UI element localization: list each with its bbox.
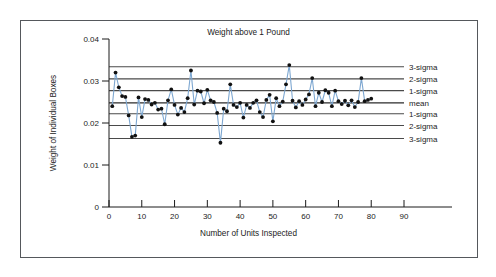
data-point-marker	[196, 89, 200, 93]
data-point-marker	[241, 116, 245, 120]
data-point-marker	[143, 97, 147, 101]
data-point-marker	[284, 82, 288, 86]
data-point-marker	[127, 114, 131, 118]
data-point-marker	[310, 76, 314, 80]
data-point-marker	[274, 96, 278, 100]
data-point-marker	[317, 91, 321, 95]
control-limit-label-lower-4: 1-sigma	[409, 110, 438, 119]
data-point-marker	[189, 69, 193, 73]
x-axis-title: Number of Units Inspected	[200, 229, 297, 238]
figure-frame: 3-sigma2-sigma1-sigmamean1-sigma2-sigma3…	[20, 20, 478, 258]
data-point-marker	[137, 95, 141, 99]
x-tick-label-9: 90	[400, 212, 409, 221]
data-point-marker	[114, 71, 118, 75]
data-point-marker	[235, 105, 239, 109]
data-point-marker	[359, 76, 363, 80]
data-point-marker	[202, 101, 206, 105]
data-point-marker	[222, 107, 226, 111]
data-point-marker	[346, 103, 350, 107]
data-point-marker	[320, 100, 324, 104]
data-point-marker	[228, 82, 232, 86]
data-point-marker	[350, 98, 354, 102]
x-tick-label-6: 60	[301, 212, 310, 221]
data-point-marker	[291, 99, 295, 103]
data-point-marker	[225, 109, 229, 113]
data-point-marker	[219, 141, 223, 145]
x-tick-label-4: 40	[236, 212, 245, 221]
data-point-marker	[169, 88, 173, 92]
data-point-marker	[264, 98, 268, 102]
data-point-marker	[245, 103, 249, 107]
data-point-marker	[327, 91, 331, 95]
data-point-marker	[333, 89, 337, 93]
data-point-marker	[153, 101, 157, 105]
control-limit-label-upper-2: 1-sigma	[409, 87, 438, 96]
x-tick-label-8: 80	[367, 212, 376, 221]
y-tick-label-0: 0	[95, 203, 100, 212]
data-point-marker	[340, 102, 344, 106]
data-point-marker	[297, 99, 301, 103]
y-tick-label-3: 0.03	[83, 77, 99, 86]
x-tick-label-5: 50	[268, 212, 277, 221]
data-point-marker	[248, 106, 252, 110]
data-point-marker	[271, 119, 275, 123]
data-point-marker	[166, 98, 170, 102]
chart-title: Weight above 1 Pound	[207, 28, 290, 37]
data-point-marker	[323, 88, 327, 92]
control-limit-label-lower-6: 3-sigma	[409, 135, 438, 144]
data-point-marker	[287, 63, 291, 67]
data-point-marker	[307, 93, 311, 97]
y-tick-label-1: 0.01	[83, 161, 99, 170]
x-tick-label-2: 20	[170, 212, 179, 221]
data-point-marker	[120, 94, 124, 98]
y-tick-label-4: 0.04	[83, 35, 99, 44]
data-point-marker	[199, 90, 203, 94]
data-point-marker	[209, 98, 213, 102]
data-point-marker	[179, 106, 183, 110]
data-point-marker	[160, 107, 164, 111]
data-point-marker	[304, 98, 308, 102]
data-point-marker	[163, 122, 167, 126]
x-tick-label-0: 0	[107, 212, 112, 221]
data-point-marker	[300, 103, 304, 107]
data-point-marker	[278, 104, 282, 108]
data-point-marker	[268, 93, 272, 97]
data-point-marker	[150, 103, 154, 107]
x-tick-label-1: 10	[137, 212, 146, 221]
data-point-marker	[363, 99, 367, 103]
data-point-marker	[314, 104, 318, 108]
data-point-marker	[173, 103, 177, 107]
control-limit-label-lower-5: 2-sigma	[409, 122, 438, 131]
data-point-marker	[366, 98, 370, 102]
data-point-marker	[182, 110, 186, 114]
data-point-marker	[123, 95, 127, 99]
y-axis-title: Weight of Individual Boxes	[49, 75, 58, 171]
data-point-marker	[258, 110, 262, 114]
data-point-marker	[215, 111, 219, 115]
data-point-marker	[343, 99, 347, 103]
data-point-marker	[369, 97, 373, 101]
control-limit-label-upper-1: 2-sigma	[409, 75, 438, 84]
data-point-marker	[281, 100, 285, 104]
data-point-marker	[133, 134, 137, 138]
data-point-marker	[255, 98, 259, 102]
data-point-marker	[130, 135, 134, 139]
data-point-marker	[192, 103, 196, 107]
control-limit-label-center-3: mean	[409, 99, 429, 108]
data-point-marker	[261, 115, 265, 119]
data-point-marker	[353, 105, 357, 109]
y-tick-label-2: 0.02	[83, 119, 99, 128]
data-point-marker	[205, 88, 209, 92]
data-point-marker	[117, 85, 121, 89]
data-point-marker	[356, 100, 360, 104]
data-point-marker	[337, 99, 341, 103]
data-point-marker	[176, 113, 180, 117]
data-point-marker	[251, 101, 255, 105]
data-point-marker	[140, 115, 144, 119]
data-point-marker	[232, 103, 236, 107]
data-point-marker	[186, 96, 190, 100]
data-point-marker	[110, 104, 114, 108]
data-point-marker	[156, 108, 160, 112]
top-cut-text	[0, 0, 496, 11]
control-chart: 3-sigma2-sigma1-sigmamean1-sigma2-sigma3…	[21, 21, 477, 257]
